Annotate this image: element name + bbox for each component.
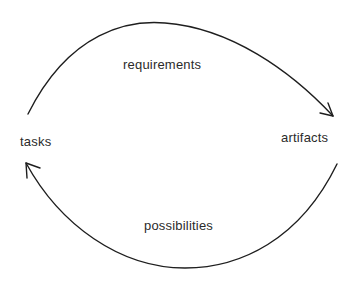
node-tasks: tasks xyxy=(20,134,51,149)
node-artifacts: artifacts xyxy=(281,130,328,145)
edge-label-possibilities: possibilities xyxy=(144,218,213,233)
task-artifact-cycle-diagram: tasks artifacts requirements possibiliti… xyxy=(0,0,356,285)
possibilities-arrow xyxy=(26,163,337,268)
edge-label-requirements: requirements xyxy=(123,57,201,72)
